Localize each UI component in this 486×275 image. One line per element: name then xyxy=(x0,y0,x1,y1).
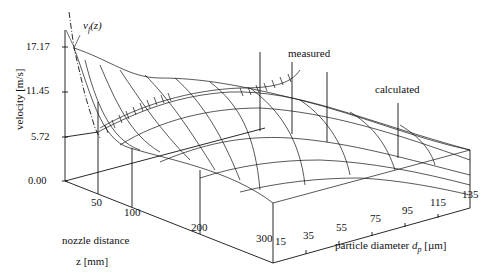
z-tick-17-17: 17.17 xyxy=(26,42,50,53)
x-tick-100: 100 xyxy=(124,207,141,218)
calculated-label: calculated xyxy=(375,84,420,95)
z-tick-5-72: 5.72 xyxy=(31,132,49,143)
y-tick-135: 135 xyxy=(462,189,479,200)
y-tick-55: 55 xyxy=(336,222,347,233)
nozzle-distance-label: nozzle distance xyxy=(62,235,130,246)
vf-label: vf(z) xyxy=(83,20,102,34)
y-tick-15: 15 xyxy=(275,236,286,247)
z-tick-0: 0.00 xyxy=(28,176,46,187)
velocity-axis-label: velocity [m/s] xyxy=(14,69,25,130)
particle-diameter-label: particle diameter dp [µm] xyxy=(335,240,446,254)
y-tick-115: 115 xyxy=(430,197,446,208)
nozzle-distance-axis xyxy=(65,181,273,263)
y-tick-75: 75 xyxy=(370,213,381,224)
nozzle-distance-unit: z [mm] xyxy=(76,256,108,267)
y-tick-95: 95 xyxy=(402,205,413,216)
x-tick-300: 300 xyxy=(256,233,273,244)
x-tick-200: 200 xyxy=(191,222,208,233)
y-tick-35: 35 xyxy=(303,230,314,241)
calculated-surface xyxy=(74,48,470,203)
measured-label: measured xyxy=(288,48,330,59)
x-tick-50: 50 xyxy=(91,197,102,208)
z-tick-11-45: 11.45 xyxy=(26,86,49,97)
